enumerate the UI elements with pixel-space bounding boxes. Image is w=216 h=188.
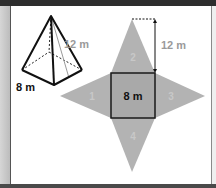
arrowhead-up-icon (153, 19, 157, 23)
face-number-1: 1 (89, 91, 95, 102)
pyramid-figure: 8 m 12 m 12 m 8 m 1 2 3 4 (0, 0, 216, 188)
square-pyramid-drawing (22, 16, 82, 85)
net-face-top (111, 19, 155, 73)
face-number-3: 3 (168, 91, 174, 102)
net-face-left (60, 73, 111, 118)
net-square-label: 8 m (124, 90, 143, 102)
face-number-4: 4 (130, 131, 136, 142)
net-face-right (155, 73, 205, 118)
net-face-bottom (111, 118, 155, 172)
pyramid-base-label: 8 m (16, 81, 35, 93)
net-height-label: 12 m (161, 39, 186, 51)
pyramid-slant-label: 12 m (64, 38, 89, 50)
face-number-2: 2 (130, 52, 136, 63)
